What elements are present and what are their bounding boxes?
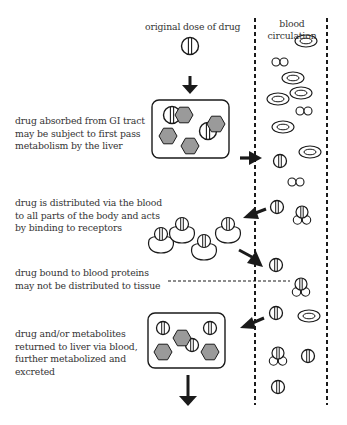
arrow-left-icon [243, 207, 266, 219]
step-line: drug and/or metabolites [15, 328, 137, 341]
step-line: may be subject to first pass [15, 128, 145, 141]
step-line: by binding to receptors [15, 222, 162, 235]
protein-bound-drugs [269, 206, 310, 365]
step-protein-binding-text: drug bound to blood proteins may not be … [15, 267, 160, 292]
step-elimination-text: drug and/or metabolites returned to live… [15, 328, 137, 378]
step-line: excreted [15, 366, 137, 379]
step-line: drug is distributed via the blood [15, 197, 162, 210]
arrow-right-icon [240, 151, 262, 165]
blood-circulation-header: blood circulation [257, 18, 327, 42]
receptor-bound-drugs [149, 218, 241, 261]
step-line: returned to liver via blood, [15, 341, 137, 354]
step-line: drug absorbed from GI tract [15, 115, 145, 128]
step-distribution-text: drug is distributed via the blood to all… [15, 197, 162, 235]
original-dose-pill-icon [182, 38, 199, 55]
liver-box-elimination [148, 313, 225, 368]
step-line: drug bound to blood proteins [15, 267, 160, 280]
header-line-1: blood [257, 18, 327, 30]
step-line: to all parts of the body and acts [15, 210, 162, 223]
step-line: further metabolized and [15, 353, 137, 366]
excretion-arrow-icon [179, 375, 197, 406]
arrow-down-right-icon [239, 250, 263, 267]
header-line-2: circulation [257, 30, 327, 42]
liver-box-first-pass [152, 100, 229, 158]
step-absorption-text: drug absorbed from GI tract may be subje… [15, 115, 145, 153]
arrow-down-icon [182, 76, 198, 94]
step-line: may not be distributed to tissue [15, 280, 160, 293]
original-dose-label: original dose of drug [145, 21, 235, 34]
step-line: metabolism by the liver [15, 140, 145, 153]
arrow-return-icon [240, 317, 264, 329]
